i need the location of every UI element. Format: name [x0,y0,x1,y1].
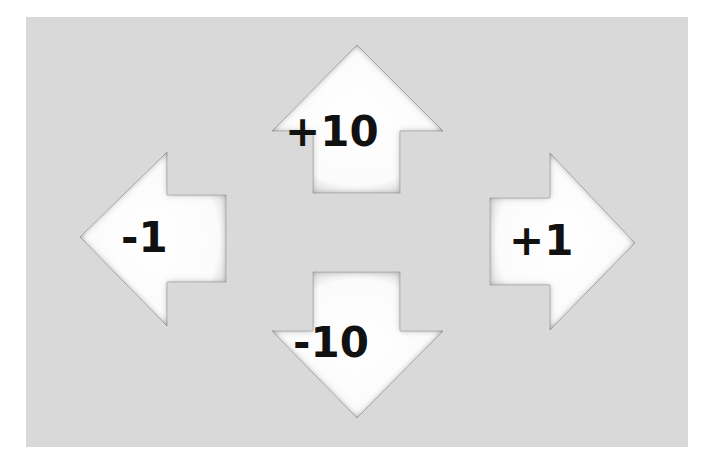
up-arrow-label: +10 [285,111,379,153]
left-arrow-label: -1 [121,217,168,259]
down-arrow-label: -10 [293,322,369,364]
arrow-pad [0,0,701,456]
right-arrow-label: +1 [509,220,573,262]
